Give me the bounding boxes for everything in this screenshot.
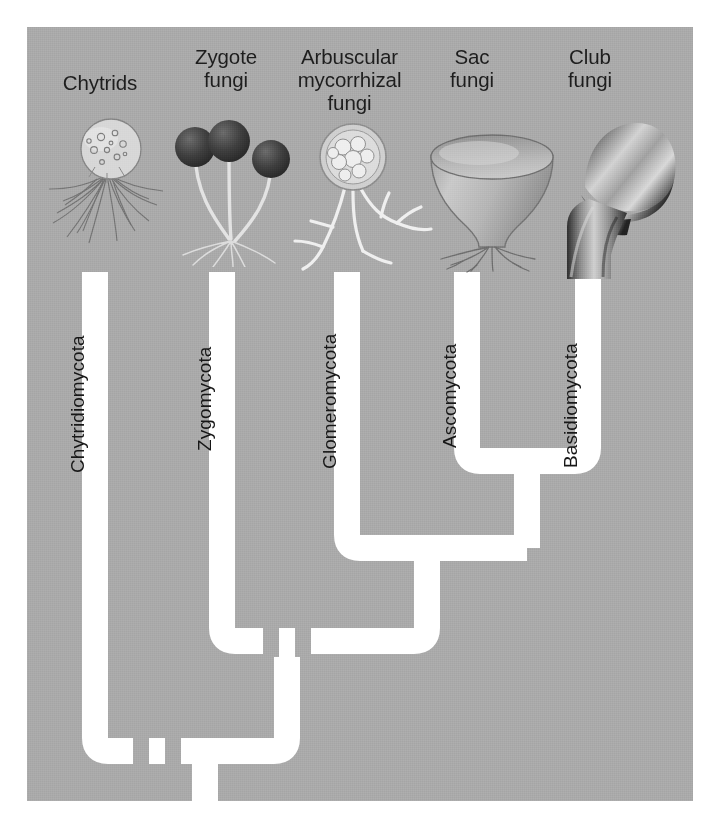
branch-stem-node-c bbox=[337, 548, 427, 641]
branch-stem-node-b bbox=[207, 641, 287, 751]
branch-node-glomeromycota-clade bbox=[347, 272, 527, 548]
common-name-arbuscular-mycorrhizal-fungi: Arbuscular mycorrhizal fungi bbox=[271, 46, 428, 115]
common-name-chytrids: Chytrids bbox=[35, 72, 165, 95]
phylum-label-glomeromycota: Glomeromycota bbox=[319, 334, 341, 469]
basidiocarp-mushroom-icon bbox=[541, 109, 681, 281]
phylum-label-basidiomycota: Basidiomycota bbox=[560, 343, 582, 468]
glomeromycete-spore-with-hyphae-icon bbox=[293, 119, 433, 271]
phylum-label-zygomycota: Zygomycota bbox=[194, 347, 216, 451]
common-name-sac-fungi: Sac fungi bbox=[412, 46, 532, 92]
chytrid-sporangium-with-rhizoids-icon bbox=[45, 117, 181, 267]
figure-canvas: Chytridiomycota Zygomycota Glomeromycota… bbox=[0, 0, 720, 828]
phylum-label-chytridiomycota: Chytridiomycota bbox=[67, 335, 89, 473]
phylum-label-ascomycota: Ascomycota bbox=[439, 344, 461, 448]
common-name-club-fungi: Club fungi bbox=[530, 46, 650, 92]
tree-branches bbox=[95, 272, 588, 801]
zygomycete-sporangiophores-icon bbox=[167, 115, 311, 267]
illustration-plate: Chytridiomycota Zygomycota Glomeromycota… bbox=[27, 27, 693, 801]
branch-node-root bbox=[95, 272, 207, 751]
